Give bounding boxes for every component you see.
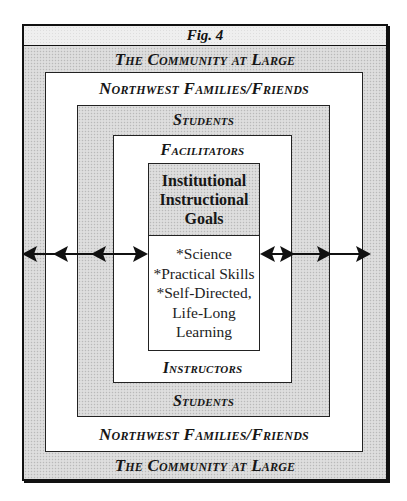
right-arrow-group bbox=[260, 246, 371, 262]
left-arrow-group bbox=[22, 246, 148, 262]
connector-arrows bbox=[0, 0, 407, 501]
